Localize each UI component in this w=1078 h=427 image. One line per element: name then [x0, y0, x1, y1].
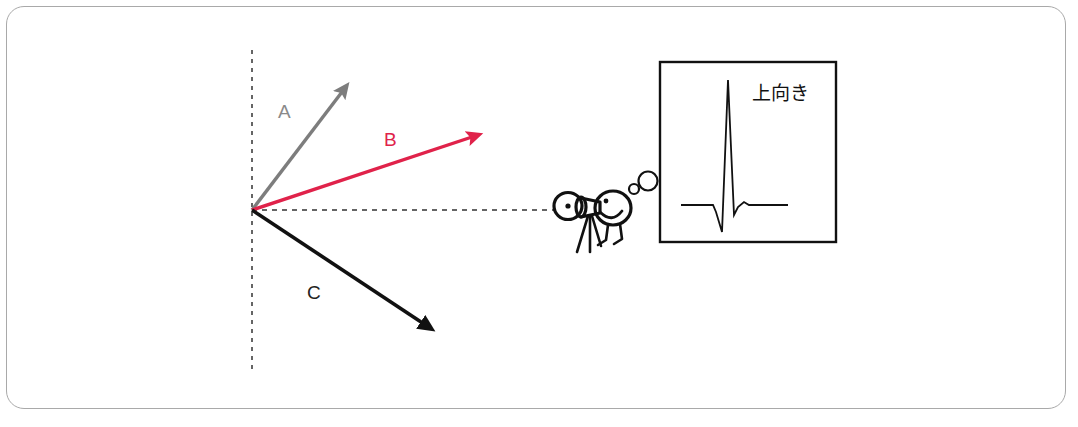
vector-labels: A B C [278, 101, 397, 303]
reference-axes [252, 50, 556, 372]
vector-arrow-a [252, 90, 344, 210]
waveform-annotation-label: 上向き [752, 82, 809, 104]
observer-mouth [600, 211, 622, 218]
person-with-telescope [554, 191, 631, 252]
telescope-lens-center-dot [565, 203, 570, 208]
tripod-leg-left [577, 216, 588, 252]
vector-arrow-b [252, 136, 474, 210]
vector-label-a: A [278, 101, 291, 122]
diagram-canvas: A B C [0, 0, 1078, 427]
observer-eye [604, 199, 609, 204]
figure-root: A B C [0, 0, 1078, 427]
vector-label-b: B [384, 129, 397, 150]
vector-group [252, 90, 474, 326]
thought-bubble-large [639, 172, 658, 191]
waveform-panel-border [660, 62, 836, 242]
vector-label-c: C [307, 282, 321, 303]
ecg-waveform-panel: 上向き [660, 62, 836, 242]
thought-bubble-small [629, 184, 639, 194]
vector-arrow-c [252, 210, 427, 326]
observer-leg-right [614, 224, 622, 244]
thought-bubbles [629, 172, 658, 195]
